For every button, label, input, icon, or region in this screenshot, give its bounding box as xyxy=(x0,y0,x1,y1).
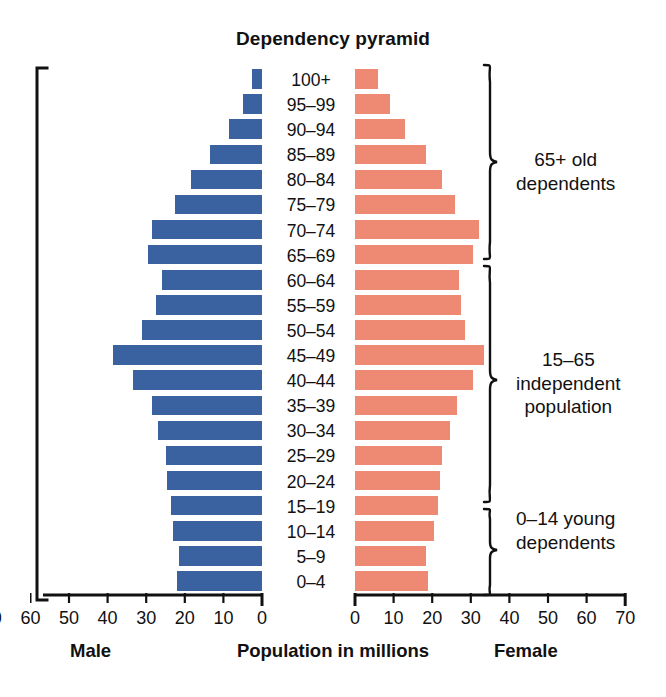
annotation-line: dependents xyxy=(516,531,615,555)
age-group-label: 85–89 xyxy=(268,143,354,168)
bar-male-65–69 xyxy=(148,245,262,265)
age-group-label: 20–24 xyxy=(268,470,354,495)
age-group-label: 5–9 xyxy=(268,545,354,570)
bar-female-60–64 xyxy=(355,270,459,290)
pyramid-row: 95–99 xyxy=(0,93,666,118)
bar-female-95–99 xyxy=(355,94,390,114)
bar-male-15–19 xyxy=(171,496,262,516)
bar-female-80–84 xyxy=(355,170,442,190)
annotation-line: 65+ old xyxy=(516,148,615,172)
bar-female-40–44 xyxy=(355,370,473,390)
bar-male-5–9 xyxy=(179,546,262,566)
annotation-65-plus-old-dependents: 65+ olddependents xyxy=(516,148,615,195)
age-group-label: 95–99 xyxy=(268,93,354,118)
bar-female-35–39 xyxy=(355,396,457,416)
bar-male-10–14 xyxy=(173,521,262,541)
pyramid-row: 30–34 xyxy=(0,419,666,444)
annotation-line: population xyxy=(516,395,621,419)
x-tick-label: 0 xyxy=(242,608,282,629)
bar-male-50–54 xyxy=(142,320,262,340)
annotation-15-65-independent-population: 15–65independentpopulation xyxy=(516,348,621,419)
age-group-label: 60–64 xyxy=(268,269,354,294)
bar-female-100+ xyxy=(355,69,378,89)
bar-male-100+ xyxy=(252,69,262,89)
annotation-line: dependents xyxy=(516,172,615,196)
pyramid-row: 50–54 xyxy=(0,319,666,344)
pyramid-row: 25–29 xyxy=(0,444,666,469)
bar-male-90–94 xyxy=(229,119,262,139)
bar-female-0–4 xyxy=(355,571,428,591)
age-group-label: 80–84 xyxy=(268,168,354,193)
pyramid-row: 60–64 xyxy=(0,269,666,294)
bar-female-15–19 xyxy=(355,496,438,516)
bar-male-60–64 xyxy=(162,270,262,290)
bar-male-40–44 xyxy=(133,370,262,390)
annotation-line: independent xyxy=(516,372,621,396)
x-tick-label: 20 xyxy=(412,608,452,629)
x-axis-male xyxy=(30,592,280,608)
age-group-label: 50–54 xyxy=(268,319,354,344)
x-tick-label: 20 xyxy=(165,608,205,629)
annotation-0-14-young-dependents: 0–14 youngdependents xyxy=(516,507,615,554)
pyramid-row: 75–79 xyxy=(0,193,666,218)
x-tick-label: 40 xyxy=(88,608,128,629)
age-group-label: 10–14 xyxy=(268,520,354,545)
bar-female-75–79 xyxy=(355,195,455,215)
bar-male-55–59 xyxy=(156,295,262,315)
bar-female-30–34 xyxy=(355,421,450,441)
age-group-label: 0–4 xyxy=(268,570,354,595)
bar-male-0–4 xyxy=(177,571,262,591)
x-tick-label: 70 xyxy=(605,608,645,629)
bar-male-85–89 xyxy=(210,145,262,165)
age-group-label: 40–44 xyxy=(268,369,354,394)
bar-female-65–69 xyxy=(355,245,473,265)
population-pyramid-figure: Dependency pyramid 100+95–9990–9485–8980… xyxy=(0,0,666,697)
pyramid-row: 70–74 xyxy=(0,219,666,244)
annotation-line: 0–14 young xyxy=(516,507,615,531)
bar-female-10–14 xyxy=(355,521,434,541)
axis-label-population: Population in millions xyxy=(0,640,666,662)
bar-female-45–49 xyxy=(355,345,484,365)
age-group-label: 100+ xyxy=(268,68,354,93)
x-tick-label: 0 xyxy=(335,608,375,629)
bar-male-45–49 xyxy=(113,345,262,365)
x-tick-label: 50 xyxy=(528,608,568,629)
x-tick-label: 30 xyxy=(126,608,166,629)
bar-male-25–29 xyxy=(166,446,263,466)
pyramid-row: 65–69 xyxy=(0,244,666,269)
bar-female-5–9 xyxy=(355,546,426,566)
axis-caption-female: Female xyxy=(494,640,558,662)
bar-female-70–74 xyxy=(355,220,479,240)
bar-female-90–94 xyxy=(355,119,405,139)
age-group-label: 55–59 xyxy=(268,294,354,319)
page-title: Dependency pyramid xyxy=(0,28,666,50)
age-group-label: 25–29 xyxy=(268,444,354,469)
x-tick-label: 60 xyxy=(567,608,607,629)
bar-female-55–59 xyxy=(355,295,461,315)
bar-female-50–54 xyxy=(355,320,465,340)
age-group-label: 35–39 xyxy=(268,394,354,419)
age-group-label: 30–34 xyxy=(268,419,354,444)
age-group-label: 75–79 xyxy=(268,193,354,218)
x-tick-label: 10 xyxy=(374,608,414,629)
pyramid-row: 20–24 xyxy=(0,470,666,495)
bar-female-25–29 xyxy=(355,446,442,466)
age-group-label: 15–19 xyxy=(268,495,354,520)
pyramid-row: 100+ xyxy=(0,68,666,93)
bar-male-30–34 xyxy=(158,421,262,441)
annotation-brackets xyxy=(478,60,512,605)
x-tick-label: 50 xyxy=(49,608,89,629)
age-group-label: 70–74 xyxy=(268,219,354,244)
bar-male-35–39 xyxy=(152,396,262,416)
x-axis-female xyxy=(348,592,638,608)
bar-male-80–84 xyxy=(191,170,262,190)
bar-female-20–24 xyxy=(355,471,440,491)
x-tick-label: 30 xyxy=(451,608,491,629)
annotation-line: 15–65 xyxy=(516,348,621,372)
pyramid-row: 55–59 xyxy=(0,294,666,319)
bar-male-70–74 xyxy=(152,220,262,240)
bar-male-95–99 xyxy=(243,94,262,114)
age-group-label: 45–49 xyxy=(268,344,354,369)
age-group-label: 65–69 xyxy=(268,244,354,269)
age-group-label: 90–94 xyxy=(268,118,354,143)
